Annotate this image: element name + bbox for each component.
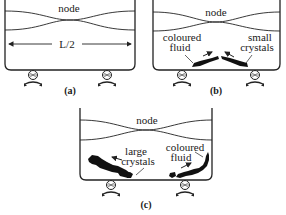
coloured-fluid-label-line2: fluid (171, 151, 192, 163)
pointer-line (246, 55, 252, 63)
pointer-line (185, 55, 193, 63)
panel-a: node L/2 (a) (5, 0, 135, 97)
roller-wheel-icon (102, 181, 120, 197)
large-crystals-label-line2: crystals (121, 155, 155, 167)
node-label: node (58, 2, 80, 14)
panel-c: node large crystals coloured fluid (c) (80, 108, 212, 211)
standing-wave-diagram: node L/2 (a) node coloured fluid small c… (0, 0, 286, 215)
flow-arrow-icon (181, 163, 191, 168)
flow-arrow-icon (203, 52, 212, 56)
flow-arrow-icon (225, 52, 234, 57)
crystal-fragment (169, 172, 176, 178)
roller-wheel-icon (176, 181, 194, 197)
roller-wheel-icon (98, 71, 116, 87)
crystal-deposit-left (192, 56, 219, 67)
small-crystals-label-line2: crystals (240, 41, 274, 53)
panel-b: node coloured fluid small crystals (b) (153, 0, 280, 97)
panel-caption: (a) (64, 85, 76, 97)
crystal-deposit-right (221, 56, 248, 67)
panel-caption: (b) (210, 85, 222, 97)
node-label: node (205, 6, 227, 18)
panel-caption: (c) (140, 199, 151, 211)
roller-wheel-icon (173, 71, 191, 87)
dimension-label: L/2 (59, 38, 74, 50)
crystal-fragment (126, 172, 133, 178)
roller-wheel-icon (246, 71, 264, 87)
coloured-fluid-label-line2: fluid (170, 41, 191, 53)
node-label: node (136, 114, 158, 126)
roller-wheel-icon (24, 71, 42, 87)
pointer-line (136, 168, 144, 175)
